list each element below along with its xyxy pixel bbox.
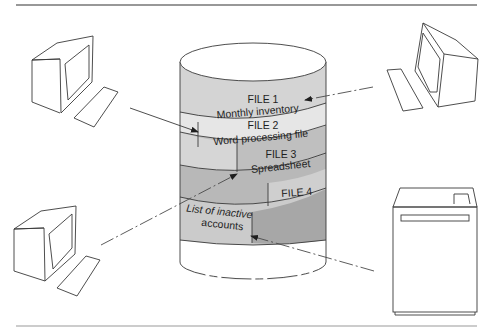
- monitor-icon: [14, 206, 76, 281]
- keyboard-icon: [57, 256, 100, 296]
- file4-title: FILE 4: [281, 185, 313, 199]
- terminal-top-right[interactable]: [387, 23, 478, 111]
- printer-icon: [393, 188, 477, 315]
- printer-bottom-right[interactable]: [393, 188, 477, 315]
- terminal-top-left[interactable]: [32, 36, 118, 127]
- monitor-icon: [32, 36, 93, 113]
- cylinder-top: [180, 43, 326, 81]
- terminal-bottom-left[interactable]: [14, 206, 100, 296]
- monitor-icon: [415, 23, 478, 107]
- diagram-canvas: FILE 1 Monthly inventory FILE 2 Word pro…: [0, 0, 493, 334]
